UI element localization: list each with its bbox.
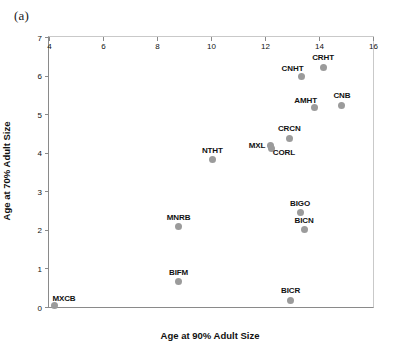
data-points-layer: MXCBBIFMMNRBNTHTMXLCORLCRCNBICRBIGOBICNC… (49, 37, 373, 307)
y-tick-label: 3 (38, 187, 42, 196)
x-tick-mark: 16 (373, 37, 374, 41)
y-tick-label: 7 (38, 33, 42, 42)
data-point-marker[interactable] (301, 226, 308, 233)
y-tick-label: 0 (38, 303, 42, 312)
y-tick-label: 2 (38, 226, 42, 235)
data-point-label: CORL (273, 148, 295, 157)
data-point-label: CRCN (278, 124, 301, 133)
data-point-label: NTHT (202, 146, 223, 155)
data-point-marker[interactable] (320, 64, 327, 71)
y-tick-label: 5 (38, 110, 42, 119)
data-point-label: MXCB (52, 294, 75, 303)
data-point-label: MXL (249, 141, 266, 150)
data-point-label: CRHT (312, 53, 334, 62)
data-point-marker[interactable] (311, 104, 318, 111)
data-point-marker[interactable] (298, 73, 305, 80)
data-point-label: BICN (295, 216, 314, 225)
data-point-label: CNHT (282, 64, 304, 73)
data-point-marker[interactable] (175, 278, 182, 285)
plot-area: 01234567 46810121416 MXCBBIFMMNRBNTHTMXL… (48, 36, 374, 308)
x-axis-title: Age at 90% Adult Size (161, 330, 260, 341)
y-tick-mark: 0 (45, 307, 49, 308)
data-point-marker[interactable] (287, 297, 294, 304)
panel-label: (a) (14, 8, 29, 24)
data-point-marker[interactable] (175, 223, 182, 230)
data-point-label: CNB (333, 91, 350, 100)
data-point-marker[interactable] (286, 135, 293, 142)
y-tick-label: 4 (38, 149, 42, 158)
y-tick-label: 6 (38, 72, 42, 81)
data-point-marker[interactable] (51, 302, 58, 309)
data-point-marker[interactable] (338, 102, 345, 109)
y-tick-label: 1 (38, 264, 42, 273)
data-point-label: AMHT (294, 96, 317, 105)
data-point-label: BICR (281, 286, 300, 295)
data-point-label: MNRB (167, 213, 191, 222)
data-point-label: BIGO (290, 199, 310, 208)
data-point-label: BIFM (169, 268, 188, 277)
y-axis-title: Age at 70% Adult Size (1, 122, 12, 221)
data-point-marker[interactable] (209, 156, 216, 163)
scatter-plot-figure: (a) Age at 70% Adult Size Age at 90% Adu… (0, 0, 406, 356)
